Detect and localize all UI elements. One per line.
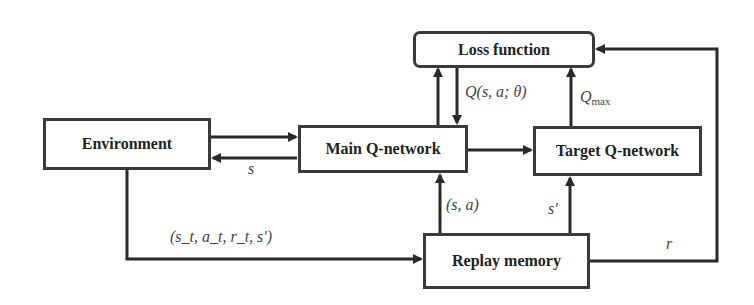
replay-memory-node: Replay memory xyxy=(423,233,590,289)
target-q-network-label: Target Q-network xyxy=(556,142,679,160)
label-sa: (s, a) xyxy=(446,196,479,214)
main-q-network-label: Main Q-network xyxy=(325,140,440,158)
label-q-max-text: Q xyxy=(580,88,592,105)
environment-label: Environment xyxy=(82,135,172,153)
label-r: r xyxy=(666,235,672,253)
label-r-text: r xyxy=(666,235,672,252)
replay-memory-label: Replay memory xyxy=(452,252,561,270)
environment-node: Environment xyxy=(43,118,211,170)
label-s-text: s xyxy=(248,160,254,177)
label-q-theta-text: Q(s, a; θ) xyxy=(465,83,527,100)
label-s-prime: s′ xyxy=(548,200,558,218)
label-transition-text: (s_t, a_t, r_t, s′) xyxy=(170,228,272,245)
label-q-max-sub: max xyxy=(592,95,611,107)
loss-function-label: Loss function xyxy=(458,41,550,59)
main-q-network-node: Main Q-network xyxy=(298,125,468,173)
label-s-prime-text: s′ xyxy=(548,200,558,217)
label-sa-text: (s, a) xyxy=(446,196,479,213)
label-s: s xyxy=(248,160,254,178)
target-q-network-node: Target Q-network xyxy=(533,126,702,176)
label-transition: (s_t, a_t, r_t, s′) xyxy=(170,228,272,246)
label-q-max: Qmax xyxy=(580,88,611,106)
label-q-theta: Q(s, a; θ) xyxy=(465,83,527,101)
loss-function-node: Loss function xyxy=(413,31,595,68)
